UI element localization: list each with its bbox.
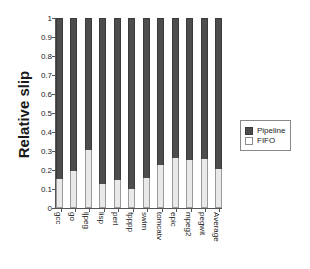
legend: Pipeline FIFO (240, 120, 291, 151)
y-axis-tick-label: 0.4 (41, 128, 52, 137)
y-axis-title: Relative slip (15, 40, 32, 190)
bar-segment-pipeline (56, 18, 63, 179)
bar-segment-pipeline (157, 18, 164, 165)
legend-label-fifo: FIFO (257, 136, 275, 145)
bar-swim (143, 18, 150, 208)
bar-average (215, 18, 222, 208)
bar-go (70, 18, 77, 208)
bar-lisp (99, 18, 106, 208)
x-axis-tick-label: lisp (97, 212, 106, 224)
x-axis-tick-label: perl (111, 212, 120, 225)
bar-segment-pipeline (172, 18, 179, 158)
bar-tomcatv (157, 18, 164, 208)
pipeline-swatch-icon (245, 127, 253, 135)
bar-segment-pipeline (128, 18, 135, 189)
y-axis-tick-label: 0.8 (41, 52, 52, 61)
y-axis-tick-label: 0.1 (41, 185, 52, 194)
x-axis-labels: gccgoijpeglispperlfppppswimtomcatvepicmp… (55, 212, 221, 268)
bar-segment-fifo (186, 160, 193, 208)
bar-segment-pipeline (186, 18, 193, 160)
x-axis-tick-label: gcc (54, 212, 63, 224)
fifo-swatch-icon (245, 137, 253, 145)
bar-segment-fifo (172, 158, 179, 208)
bar-segment-pipeline (70, 18, 77, 171)
bar-perl (114, 18, 121, 208)
legend-label-pipeline: Pipeline (257, 126, 285, 135)
x-axis-tick-label: Average (212, 212, 221, 242)
bar-segment-fifo (99, 184, 106, 208)
bar-gcc (56, 18, 63, 208)
bar-segment-fifo (85, 150, 92, 208)
x-axis-tick-label: tomcatv (155, 212, 164, 240)
bar-segment-pipeline (215, 18, 222, 169)
y-axis-tick-label: 0.7 (41, 71, 52, 80)
x-axis-tick-label: epic (169, 212, 178, 227)
bar-segment-fifo (56, 179, 63, 208)
bar-segment-pipeline (99, 18, 106, 184)
bar-segment-pipeline (201, 18, 208, 159)
bar-ijpeg (85, 18, 92, 208)
x-axis-tick-label: mpeg2 (184, 212, 193, 236)
x-axis-tick-label: go (68, 212, 77, 221)
y-axis-tick-label: 0.5 (41, 109, 52, 118)
bar-segment-fifo (128, 189, 135, 208)
bar-fpppp (128, 18, 135, 208)
bar-series-container (56, 18, 222, 208)
legend-item-fifo: FIFO (245, 136, 285, 145)
bar-segment-fifo (114, 180, 121, 208)
plot-area: 00.10.20.30.40.50.60.70.80.91 (55, 18, 222, 209)
bar-segment-pipeline (85, 18, 92, 150)
bar-segment-fifo (70, 171, 77, 208)
bar-segment-fifo (157, 165, 164, 208)
x-axis-tick-label: pegwit (198, 212, 207, 235)
y-axis-tick-label: 0.3 (41, 147, 52, 156)
bar-epic (172, 18, 179, 208)
x-axis-tick-label: ijpeg (82, 212, 91, 229)
bar-mpeg2 (186, 18, 193, 208)
bar-segment-fifo (143, 178, 150, 208)
x-axis-tick-label: swim (140, 212, 149, 230)
stacked-bar-chart: Relative slip 00.10.20.30.40.50.60.70.80… (0, 0, 310, 269)
bar-segment-pipeline (114, 18, 121, 180)
y-axis-tick-label: 0.9 (41, 33, 52, 42)
bar-pegwit (201, 18, 208, 208)
y-axis-tick-mark (52, 208, 56, 209)
x-axis-tick-label: fpppp (126, 212, 135, 232)
legend-item-pipeline: Pipeline (245, 126, 285, 135)
y-axis-tick-label: 0.6 (41, 90, 52, 99)
bar-segment-fifo (201, 159, 208, 208)
y-axis-tick-label: 0.2 (41, 166, 52, 175)
bar-segment-pipeline (143, 18, 150, 178)
bar-segment-fifo (215, 169, 222, 208)
